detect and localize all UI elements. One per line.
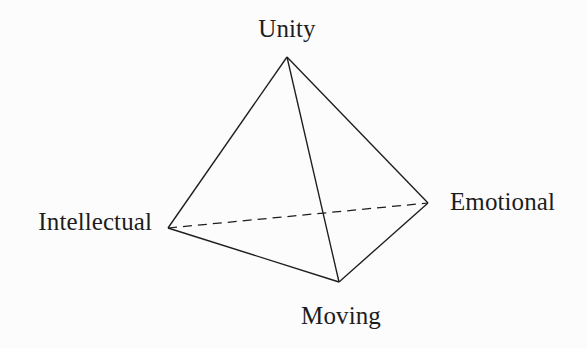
vertex-label-emotional: Emotional	[450, 189, 555, 214]
edge-unity-moving	[287, 57, 339, 282]
vertex-label-intellectual: Intellectual	[38, 209, 152, 234]
tetrahedron-diagram: Unity Intellectual Emotional Moving	[0, 0, 587, 348]
edge-moving-emotional	[339, 203, 428, 282]
edge-unity-emotional	[287, 57, 428, 203]
edge-intellectual-emotional	[168, 203, 428, 228]
vertex-label-unity: Unity	[258, 16, 315, 41]
vertex-label-moving: Moving	[301, 303, 381, 328]
edge-unity-intellectual	[168, 57, 287, 228]
tetrahedron-wireframe	[0, 0, 587, 348]
edge-intellectual-moving	[168, 228, 339, 282]
